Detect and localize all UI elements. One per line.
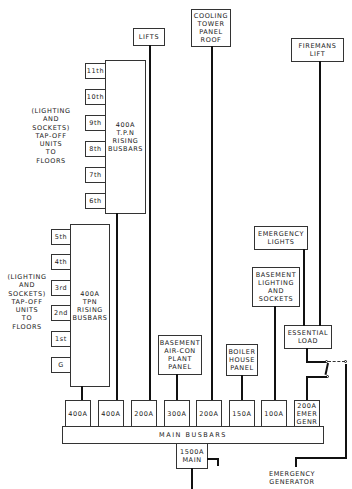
main-breaker-tail-drop — [217, 458, 219, 466]
breaker-300a-aircon: 300A — [164, 400, 190, 427]
feeder-aircon — [176, 374, 178, 400]
basement-lighting-panel: BASEMENT LIGHTING AND SOCKETS — [252, 267, 300, 307]
lower-riser-note: (LIGHTING AND SOCKETS) TAP-OFF UNITS TO … — [2, 273, 52, 331]
essential-load-horiz — [306, 361, 326, 363]
feeder-boiler — [241, 375, 243, 400]
changeover-mechanical-link — [328, 361, 345, 362]
floor-tap-off-7th: 7th — [85, 167, 106, 183]
feeder-emergency-lights — [303, 249, 305, 326]
changeover-contact-generator — [344, 360, 347, 363]
floor-tap-off-6th: 6th — [85, 193, 106, 209]
main-breaker-1500a: 1500A MAIN — [176, 443, 208, 469]
floor-tap-off-4th: 4th — [51, 254, 71, 270]
essential-load-down — [306, 348, 308, 362]
breaker-400a-lower-riser: 400A — [65, 400, 91, 427]
generator-feed-horizontal — [295, 457, 347, 459]
emer-breaker-up — [306, 376, 308, 400]
floor-tap-off-2nd: 2nd — [51, 305, 71, 321]
upper-riser-note: (LIGHTING AND SOCKETS) TAP-OFF UNITS TO … — [24, 107, 78, 165]
feeder-lifts — [149, 45, 151, 400]
emer-breaker-horiz — [306, 376, 327, 378]
emergency-generator-label: EMERGENCY GENERATOR — [262, 470, 322, 487]
feeder-basement-lighting — [274, 306, 276, 400]
floor-tap-off-10th: 10th — [85, 89, 106, 105]
feeder-firemans-lift — [319, 61, 321, 326]
boiler-house-panel: BOILER HOUSE PANEL — [226, 344, 258, 376]
breaker-100a-basement: 100A — [261, 400, 287, 427]
floor-tap-off-8th: 8th — [85, 141, 106, 157]
feeder-upper-riser — [116, 213, 118, 400]
changeover-blade — [325, 363, 329, 375]
floor-tap-off-1st: 1st — [51, 331, 71, 347]
firemans-lift-panel: FIREMANS LIFT — [291, 38, 344, 62]
upper-rising-busbar: 400A T.P.N RISING BUSBARS — [105, 60, 146, 214]
cooling-tower-panel: COOLING TOWER PANEL ROOF — [191, 9, 231, 47]
generator-feed-vertical — [345, 364, 347, 458]
breaker-200a-lifts: 200A — [131, 400, 157, 427]
incoming-supply — [191, 468, 193, 489]
floor-tap-off-9th: 9th — [85, 115, 106, 131]
floor-tap-off-3rd: 3rd — [51, 280, 71, 296]
feeder-cooling-tower — [211, 46, 213, 400]
floor-tap-off-5th: 5th — [51, 229, 71, 245]
breaker-400a-upper-riser: 400A — [98, 400, 124, 427]
emergency-lights-panel: EMERGENCY LIGHTS — [254, 226, 308, 250]
breaker-150a-boiler: 150A — [229, 400, 255, 427]
main-busbars: MAIN BUSBARS — [62, 426, 324, 444]
generator-feed-drop — [295, 457, 297, 467]
breaker-200a-cooling: 200A — [196, 400, 222, 427]
basement-aircon-panel: BASEMENT AIR-CON PLANT PANEL — [158, 335, 202, 375]
feeder-lower-riser — [81, 386, 83, 400]
breaker-200a-emergency-generator: 200A EMER GENR — [294, 400, 320, 427]
floor-tap-off-G: G — [51, 357, 71, 373]
essential-load-panel: ESSENTIAL LOAD — [284, 325, 332, 349]
lifts-panel: LIFTS — [133, 28, 165, 46]
floor-tap-off-11th: 11th — [85, 63, 106, 79]
lower-rising-busbar: 400A TPN RISING BUSBARS — [70, 224, 110, 387]
